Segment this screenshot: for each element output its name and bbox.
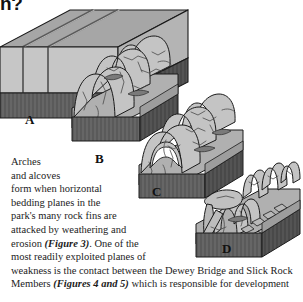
figure-citation: (Figure 3) [45, 238, 90, 249]
body-line: Arches [11, 155, 303, 169]
body-text-run: erosion [11, 238, 45, 249]
body-line: bedding planes in the [11, 196, 303, 210]
body-line: form when horizontal [11, 182, 303, 196]
body-text-run: Members [11, 278, 53, 289]
body-line: and alcoves [11, 169, 303, 183]
heading-fragment: n? [0, 0, 23, 15]
body-text-run: form when horizontal [11, 183, 102, 194]
document-page: n? [0, 0, 303, 302]
body-text-run: which is responsible for development [129, 278, 289, 289]
body-text-run: . One of the [89, 238, 139, 249]
figure-citation: (Figures 4 and 5) [53, 278, 129, 289]
body-text-run: weakness is the contact between the Dewe… [11, 265, 293, 276]
body-line: most readily exploited planes of [11, 250, 303, 264]
stage-a-block [0, 10, 188, 118]
body-line: park's many rock fins are [11, 209, 303, 223]
stage-label-a: A [25, 113, 34, 126]
body-text-run: attacked by weathering and [11, 224, 126, 235]
stage-b-block [72, 36, 178, 141]
body-line: erosion (Figure 3). One of the [11, 237, 303, 251]
body-text-run: and alcoves [11, 170, 60, 181]
body-line: weakness is the contact between the Dewe… [11, 264, 303, 278]
body-line: Members (Figures 4 and 5) which is respo… [11, 277, 303, 291]
body-text-run: Arches [11, 156, 41, 167]
body-text-run: bedding planes in the [11, 197, 101, 208]
body-text-run: most readily exploited planes of [11, 251, 146, 262]
body-paragraph: Archesand alcovesform when horizontalbed… [11, 155, 303, 291]
body-line: attacked by weathering and [11, 223, 303, 237]
body-text-run: park's many rock fins are [11, 210, 117, 221]
